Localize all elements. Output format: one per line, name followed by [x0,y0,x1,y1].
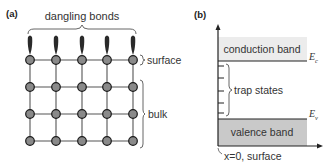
atom-icon [78,110,87,119]
atom-icon [129,110,138,119]
atom-icon [52,137,61,146]
energy-axis-arrow-icon [216,24,221,30]
lattice-bonds [30,60,133,141]
atom-icon [26,56,35,65]
atom-icon [52,56,61,65]
dangling-bond-icon [54,36,59,56]
atom-icon [78,56,87,65]
atom-icon [26,137,35,146]
dangling-bonds-brace [28,25,136,34]
x-axis-label: x=0, surface [224,150,282,162]
panel-b-label: (b) [194,9,206,20]
panel-a: (a) dangling bonds [6,8,182,148]
atom-icon [103,83,112,92]
atom-icon [52,83,61,92]
origin-leader [218,148,222,154]
atom-icon [103,56,112,65]
atom-icon [129,56,138,65]
surface-label: surface [147,54,182,66]
panel-a-label: (a) [6,8,18,19]
atom-icon [103,137,112,146]
panel-b: (b) conduction band valence band Ec Ev t… [194,9,323,162]
dangling-bond-icon [28,36,33,56]
figure: (a) dangling bonds [0,0,335,168]
bulk-label: bulk [148,108,168,120]
valence-band-label: valence band [231,126,294,138]
bulk-brace [140,80,145,148]
dangling-bonds-title: dangling bonds [45,10,120,22]
atom-icon [78,137,87,146]
atom-icon [129,83,138,92]
atom-icon [26,110,35,119]
atom-icon [52,110,61,119]
dangling-bond-icon [131,36,136,56]
dangling-bond-icon [80,36,85,56]
ec-label: Ec [308,51,318,64]
trap-states-label: trap states [234,84,283,96]
dangling-bond-icon [105,36,110,56]
atom-icon [78,83,87,92]
trap-state-ticks [218,66,224,113]
atom-icon [26,83,35,92]
atom-icon [103,110,112,119]
dangling-bond-icons [28,36,136,56]
position-axis-arrow-icon [317,144,323,149]
atom-icon [129,137,138,146]
ev-label: Ev [308,108,318,121]
trap-states-brace [226,64,232,116]
surface-brace [140,55,145,65]
conduction-band-label: conduction band [223,43,300,55]
